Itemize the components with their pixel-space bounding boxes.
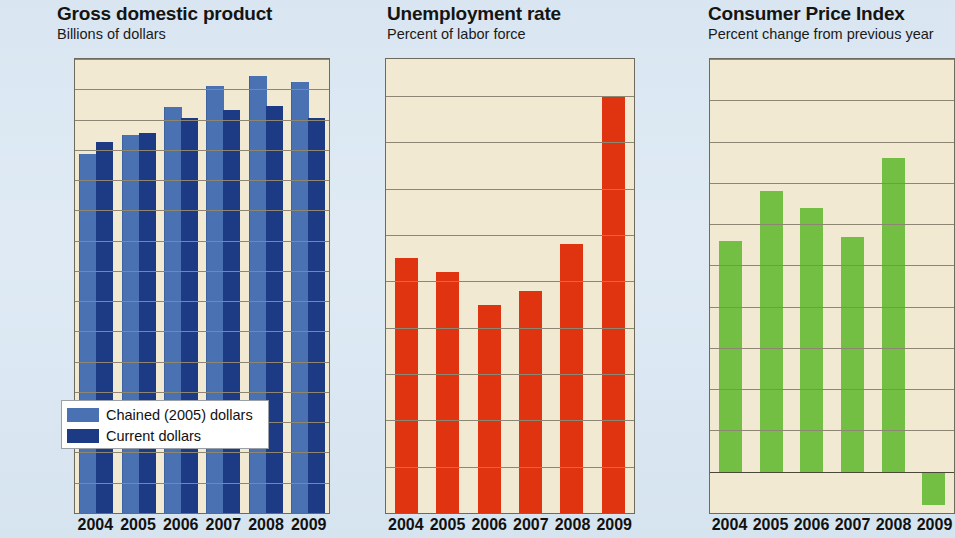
gridline	[75, 59, 329, 60]
gridline	[710, 59, 954, 60]
x-axis-label: 2004	[709, 516, 750, 534]
bar	[719, 241, 742, 472]
bar	[181, 118, 198, 513]
legend-label-chained: Chained (2005) dollars	[106, 407, 253, 423]
chart-panel-unemployment: Unemployment rate Percent of labor force…	[355, 0, 665, 538]
x-axis-label: 2009	[593, 516, 635, 534]
x-axis-labels-cpi: 200420052006200720082009	[709, 516, 955, 534]
x-axis-label: 2007	[202, 516, 245, 534]
gridline	[710, 430, 954, 431]
gridline	[710, 224, 954, 225]
gridline	[710, 513, 954, 514]
chart-title-cpi: Consumer Price Index	[708, 3, 905, 25]
chart-subtitle-cpi: Percent change from previous year	[708, 26, 934, 42]
gridline	[75, 180, 329, 181]
x-axis-label: 2004	[74, 516, 117, 534]
x-axis-labels-unemployment: 200420052006200720082009	[385, 516, 635, 534]
gridline	[75, 331, 329, 332]
gridline	[710, 142, 954, 143]
bar	[800, 208, 823, 472]
gridline	[75, 392, 329, 393]
gridline	[75, 150, 329, 151]
gridline	[386, 235, 634, 236]
bar	[139, 133, 156, 513]
bar	[478, 305, 501, 513]
bar	[96, 142, 113, 513]
x-axis-label: 2005	[117, 516, 160, 534]
gridline	[710, 183, 954, 184]
x-axis-label: 2009	[287, 516, 330, 534]
x-axis-labels-gdp: 200420052006200720082009	[74, 516, 330, 534]
plot-area-cpi: 5.04.54.03.53.02.52.01.51.00.50.0-0.5	[709, 58, 955, 514]
gridline	[710, 389, 954, 390]
gridline	[386, 513, 634, 514]
gridline	[386, 281, 634, 282]
gridline	[386, 328, 634, 329]
bar	[560, 244, 583, 513]
gridline	[386, 142, 634, 143]
gridline	[386, 374, 634, 375]
gridline	[710, 348, 954, 349]
bar	[519, 291, 542, 513]
x-axis-label: 2008	[245, 516, 288, 534]
gridline	[710, 472, 954, 473]
infographic-page: Gross domestic product Billions of dolla…	[0, 0, 955, 538]
x-axis-label: 2008	[552, 516, 594, 534]
gridline	[75, 210, 329, 211]
bar	[291, 82, 309, 513]
gridline	[710, 100, 954, 101]
x-axis-label: 2007	[510, 516, 552, 534]
gridline	[75, 301, 329, 302]
gridline	[386, 420, 634, 421]
gridline	[710, 307, 954, 308]
bar	[882, 158, 905, 472]
bar-group-unemployment	[386, 59, 634, 513]
x-axis-label: 2009	[914, 516, 955, 534]
chart-title-gdp: Gross domestic product	[57, 3, 272, 25]
x-axis-label: 2008	[873, 516, 914, 534]
bar	[79, 154, 97, 513]
x-axis-label: 2005	[750, 516, 791, 534]
legend-swatch-current-icon	[67, 429, 99, 443]
x-axis-label: 2006	[159, 516, 202, 534]
chart-title-unemployment: Unemployment rate	[387, 3, 561, 25]
chart-panel-cpi: Consumer Price Index Percent change from…	[665, 0, 955, 538]
chart-panel-gdp: Gross domestic product Billions of dolla…	[0, 0, 348, 538]
gridline	[386, 189, 634, 190]
legend-label-current: Current dollars	[106, 428, 201, 444]
bar-group-cpi	[710, 59, 954, 513]
bar	[308, 118, 325, 513]
gridline	[386, 96, 634, 97]
gridline	[75, 241, 329, 242]
gridline	[75, 483, 329, 484]
gridline	[710, 265, 954, 266]
legend-item-current: Current dollars	[67, 425, 263, 446]
x-axis-label: 2006	[468, 516, 510, 534]
gridline	[75, 120, 329, 121]
bar	[436, 272, 459, 513]
x-axis-label: 2004	[385, 516, 427, 534]
bar	[841, 237, 864, 472]
plot-area-unemployment: 9876543210	[385, 58, 635, 514]
x-axis-label: 2006	[791, 516, 832, 534]
gridline	[75, 513, 329, 514]
legend-swatch-chained-icon	[67, 408, 99, 422]
x-axis-label: 2005	[427, 516, 469, 534]
legend-gdp: Chained (2005) dollars Current dollars	[61, 400, 269, 449]
chart-subtitle-gdp: Billions of dollars	[57, 26, 166, 42]
legend-item-chained: Chained (2005) dollars	[67, 404, 263, 425]
gridline	[75, 362, 329, 363]
x-axis-label: 2007	[832, 516, 873, 534]
bar	[602, 96, 625, 513]
gridline	[75, 271, 329, 272]
gridline	[75, 452, 329, 453]
bar	[122, 135, 140, 513]
chart-subtitle-unemployment: Percent of labor force	[387, 26, 526, 42]
gridline	[75, 89, 329, 90]
bar	[922, 472, 945, 505]
gridline	[386, 467, 634, 468]
bar	[395, 258, 418, 513]
